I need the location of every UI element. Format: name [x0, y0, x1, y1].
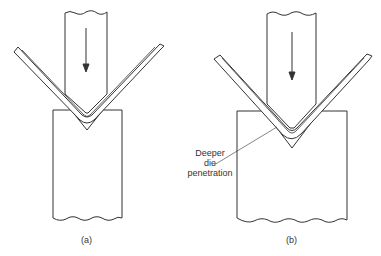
- die-a: [53, 110, 122, 220]
- annotation-line-3: penetration: [180, 168, 240, 178]
- annotation-line-1: Deeper: [180, 148, 240, 158]
- panel-a: [14, 11, 164, 221]
- annotation-line-2: die: [180, 158, 240, 168]
- caption-b: (b): [286, 235, 297, 245]
- caption-a: (a): [81, 235, 92, 245]
- panel-b: [214, 12, 372, 223]
- press-brake-diagram: [0, 0, 381, 256]
- annotation-label: Deeper die penetration: [180, 148, 240, 178]
